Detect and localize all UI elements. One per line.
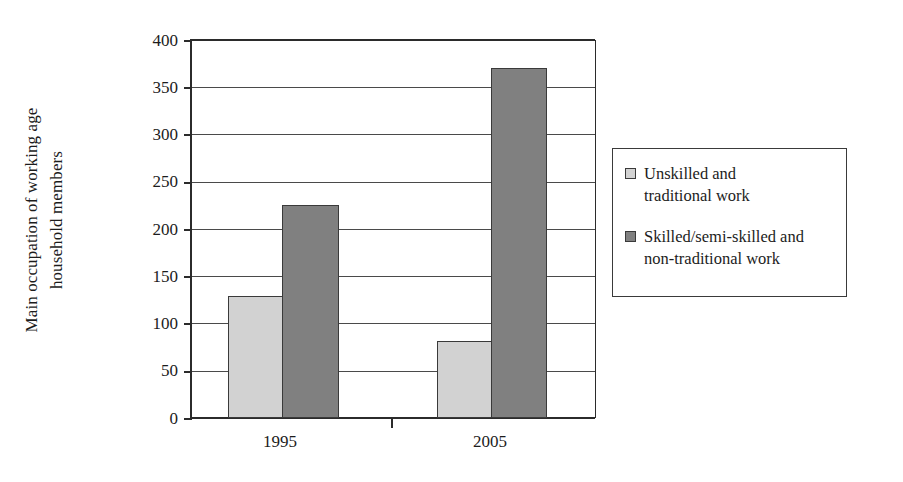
legend-label-line-1: Skilled/semi-skilled and bbox=[644, 226, 804, 248]
y-tick-200 bbox=[184, 229, 192, 231]
y-tick-50 bbox=[184, 371, 192, 373]
legend-swatch-icon-dark bbox=[625, 231, 636, 242]
y-tick-label: 300 bbox=[153, 126, 179, 143]
y-tick-label: 350 bbox=[153, 79, 179, 96]
y-axis-title: Main occupation of working age household… bbox=[16, 0, 72, 440]
y-tick-label: 100 bbox=[153, 315, 179, 332]
y-axis-tick-labels: 400 350 300 250 200 150 100 50 0 bbox=[120, 40, 178, 418]
x-axis-center-tick bbox=[391, 419, 393, 428]
bar-1995-unskilled[interactable] bbox=[228, 296, 283, 418]
y-tick-0 bbox=[184, 418, 192, 420]
legend-label-skilled: Skilled/semi-skilled and non-traditional… bbox=[644, 226, 804, 270]
y-tick-label: 50 bbox=[161, 362, 178, 379]
y-tick-250 bbox=[184, 182, 192, 184]
y-axis-title-line-2: household members bbox=[44, 108, 69, 333]
y-tick-label: 0 bbox=[170, 410, 179, 427]
bar-1995-skilled[interactable] bbox=[282, 205, 339, 418]
legend-entry-unskilled[interactable]: Unskilled and traditional work bbox=[625, 163, 836, 207]
y-tick-label: 150 bbox=[153, 268, 179, 285]
legend-swatch-icon-light bbox=[625, 168, 636, 179]
bar-chart-figure: Main occupation of working age household… bbox=[0, 0, 903, 482]
legend-label-line-2: traditional work bbox=[644, 185, 750, 207]
y-tick-150 bbox=[184, 276, 192, 278]
legend-entry-skilled[interactable]: Skilled/semi-skilled and non-traditional… bbox=[625, 226, 836, 270]
y-tick-label: 400 bbox=[153, 32, 179, 49]
legend-label-line-1: Unskilled and bbox=[644, 163, 750, 185]
bar-2005-unskilled[interactable] bbox=[437, 341, 492, 419]
y-tick-300 bbox=[184, 134, 192, 136]
x-tick-label-2005: 2005 bbox=[450, 432, 530, 452]
y-tick-350 bbox=[184, 87, 192, 89]
x-tick-label-1995: 1995 bbox=[240, 432, 320, 452]
y-tick-label: 250 bbox=[153, 173, 179, 190]
y-tick-100 bbox=[184, 323, 192, 325]
y-axis-title-line-1: Main occupation of working age bbox=[19, 108, 44, 333]
bar-2005-skilled[interactable] bbox=[491, 68, 547, 418]
legend-label-line-2: non-traditional work bbox=[644, 248, 804, 270]
y-tick-label: 200 bbox=[153, 221, 179, 238]
legend: Unskilled and traditional work Skilled/s… bbox=[612, 148, 847, 297]
y-tick-400 bbox=[184, 40, 192, 42]
legend-label-unskilled: Unskilled and traditional work bbox=[644, 163, 750, 207]
plot-area bbox=[190, 40, 596, 418]
